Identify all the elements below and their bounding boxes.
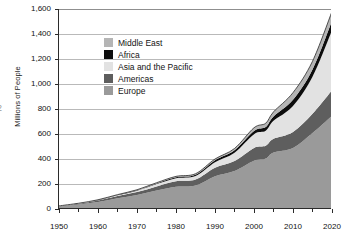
x-tick-label-2020: 2020 <box>323 222 341 231</box>
plot-clip <box>59 9 331 208</box>
y-tick-mark-200 <box>55 184 59 185</box>
y-tick-label-200: 200 <box>0 179 51 188</box>
x-tick-mark-1980 <box>176 209 177 213</box>
x-tick-mark-2020 <box>332 209 333 213</box>
plot-area: 19501960197019801990200020102020 Middle … <box>58 9 331 209</box>
legend-swatch-icon <box>104 74 113 83</box>
legend-item-label: Middle East <box>118 38 162 48</box>
x-tick-mark-2000 <box>254 209 255 213</box>
y-tick-label-600: 600 <box>0 129 51 138</box>
legend-item-asia-and-the-pacific[interactable]: Asia and the Pacific <box>104 61 193 72</box>
x-tick-label-1990: 1990 <box>206 222 224 231</box>
legend-item-label: Europe <box>118 86 145 96</box>
x-tick-label-1960: 1960 <box>89 222 107 231</box>
x-tick-mark-minor-2015 <box>312 209 313 212</box>
stacked-area-chart: Millions of People 02004006008001,0001,2… <box>0 0 343 231</box>
area-series-group <box>59 9 331 208</box>
y-tick-label-400: 400 <box>0 154 51 163</box>
legend-swatch-icon <box>104 50 113 59</box>
x-tick-mark-1990 <box>215 209 216 213</box>
y-tick-mark-1000 <box>55 84 59 85</box>
y-tick-label-800: 800 <box>0 104 51 113</box>
x-tick-mark-2010 <box>293 209 294 213</box>
x-tick-mark-minor-1955 <box>78 209 79 212</box>
x-tick-label-1950: 1950 <box>50 222 68 231</box>
legend-swatch-icon <box>104 86 113 95</box>
legend-item-africa[interactable]: Africa <box>104 49 193 60</box>
y-tick-mark-400 <box>55 159 59 160</box>
x-tick-mark-1970 <box>137 209 138 213</box>
y-tick-mark-1400 <box>55 34 59 35</box>
legend-item-middle-east[interactable]: Middle East <box>104 37 193 48</box>
y-tick-mark-800 <box>55 109 59 110</box>
x-tick-mark-minor-2005 <box>273 209 274 212</box>
legend-item-europe[interactable]: Europe <box>104 85 193 96</box>
legend-item-americas[interactable]: Americas <box>104 73 193 84</box>
x-tick-mark-minor-1975 <box>156 209 157 212</box>
y-tick-label-0: 0 <box>0 204 51 213</box>
x-tick-label-2010: 2010 <box>284 222 302 231</box>
x-tick-mark-minor-1995 <box>234 209 235 212</box>
x-tick-label-1980: 1980 <box>167 222 185 231</box>
legend-swatch-icon <box>104 62 113 71</box>
legend-item-label: Africa <box>118 50 140 60</box>
x-tick-label-1970: 1970 <box>128 222 146 231</box>
y-tick-label-1200: 1,200 <box>0 54 51 63</box>
legend-swatch-icon <box>104 38 113 47</box>
x-tick-mark-minor-1985 <box>195 209 196 212</box>
y-tick-label-1400: 1,400 <box>0 29 51 38</box>
x-tick-mark-1950 <box>59 209 60 213</box>
x-tick-mark-minor-1965 <box>117 209 118 212</box>
x-tick-mark-1960 <box>98 209 99 213</box>
y-tick-mark-600 <box>55 134 59 135</box>
y-tick-label-1600: 1,600 <box>0 4 51 13</box>
x-tick-label-2000: 2000 <box>245 222 263 231</box>
chart-legend: Middle EastAfricaAsia and the PacificAme… <box>104 37 193 96</box>
legend-item-label: Asia and the Pacific <box>118 62 193 72</box>
y-tick-mark-1600 <box>55 9 59 10</box>
legend-item-label: Americas <box>118 74 153 84</box>
y-tick-mark-1200 <box>55 59 59 60</box>
y-tick-label-1000: 1,000 <box>0 79 51 88</box>
